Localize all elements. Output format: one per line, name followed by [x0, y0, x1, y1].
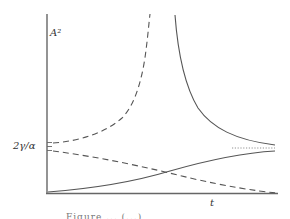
dashed-rising-curve: [53, 14, 150, 143]
y-ticks: [47, 143, 52, 151]
y-axis-label: A²: [50, 27, 61, 38]
plot-canvas: [0, 0, 290, 219]
figure: A² t 2γ/α Figure ... (...): [0, 0, 290, 219]
solid-decreasing-curve: [175, 15, 275, 145]
figure-caption: Figure ... (...): [66, 212, 142, 219]
y-tick-label: 2γ/α: [13, 140, 35, 151]
x-axis-label: t: [210, 197, 214, 208]
